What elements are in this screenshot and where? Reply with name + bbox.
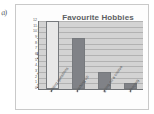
y-tick-label: 2 [35,76,37,80]
handwritten-margin-annotation: a) [0,8,7,18]
bar-series [39,21,143,89]
y-tick-label: 8 [35,42,37,46]
y-tick-label: 0 [35,87,37,91]
plot-area [38,21,143,90]
y-tick-label: 3 [35,70,37,74]
y-tick-label: 9 [35,36,37,40]
x-axis-tick-labels: writing questionsmarking upgoing on a co… [38,91,143,114]
y-tick-label: 6 [35,53,37,57]
y-tick-label: 4 [35,65,37,69]
y-tick-label: 12 [33,19,37,23]
y-axis-tick-labels: 0123456789101112 [27,21,37,89]
y-tick-label: 11 [33,25,37,29]
y-tick-label: 5 [35,59,37,63]
y-tick-label: 10 [33,31,37,35]
y-tick-label: 7 [35,48,37,52]
y-tick-label: 1 [35,82,37,86]
chart-figure-frame: Favourite Hobbies Number of Examiners 01… [15,4,149,110]
